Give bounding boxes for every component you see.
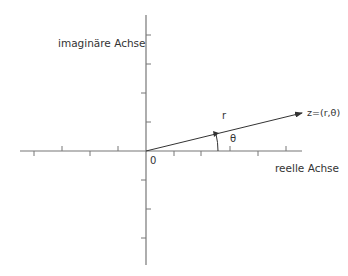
- radius-label: r: [222, 110, 227, 121]
- imaginary-axis-label: imaginäre Achse: [58, 37, 146, 49]
- real-axis-label: reelle Achse: [275, 162, 339, 174]
- complex-plane-diagram: imaginäre Achse reelle Achse 0 r θ z=(r,…: [0, 0, 348, 276]
- angle-arc: [216, 134, 218, 151]
- point-label: z=(r,θ): [307, 107, 340, 118]
- angle-label: θ: [230, 133, 236, 144]
- origin-label: 0: [150, 155, 156, 166]
